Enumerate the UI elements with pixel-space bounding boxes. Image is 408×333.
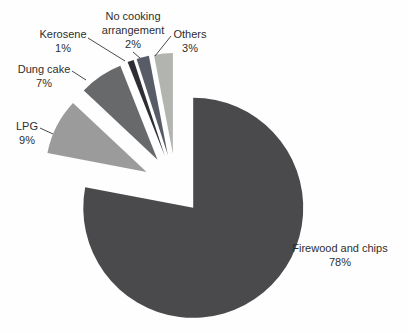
slice-label-others-pct: 3%: [166, 41, 214, 55]
slice-label-no-cooking-pct: 2%: [94, 37, 172, 51]
slice-label-kerosene: Kerosene 1%: [31, 27, 95, 55]
slice-label-no-cooking-name: No cooking arrangement: [94, 9, 172, 37]
slice-label-lpg-pct: 9%: [7, 133, 47, 147]
slice-label-kerosene-name: Kerosene: [31, 27, 95, 41]
slice-label-firewood-pct: 78%: [275, 255, 405, 269]
pie-slice-firewood-and-chips: [83, 98, 303, 318]
slice-label-dung-cake: Dung cake 7%: [9, 62, 79, 90]
slice-label-lpg: LPG 9%: [7, 119, 47, 147]
slice-label-firewood-name: Firewood and chips: [275, 241, 405, 255]
leader-line-no-cooking: [133, 52, 140, 58]
slice-label-no-cooking: No cooking arrangement 2%: [94, 9, 172, 51]
slice-label-firewood: Firewood and chips 78%: [275, 241, 405, 269]
slice-label-others-name: Others: [166, 27, 214, 41]
slice-label-lpg-name: LPG: [7, 119, 47, 133]
slice-label-dung-cake-name: Dung cake: [9, 62, 79, 76]
slice-label-dung-cake-pct: 7%: [9, 76, 79, 90]
pie-chart: Firewood and chips 78% LPG 9% Dung cake …: [0, 0, 408, 333]
slice-label-kerosene-pct: 1%: [31, 41, 95, 55]
slice-label-others: Others 3%: [166, 27, 214, 55]
